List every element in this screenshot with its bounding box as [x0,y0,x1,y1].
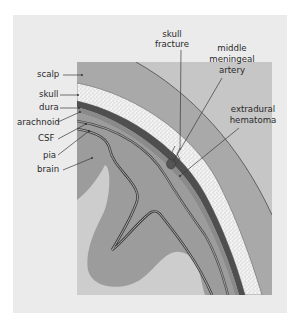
label-dura: dura [39,102,59,112]
label-mma-2: meningeal [209,54,254,64]
label-csf: CSF [38,133,54,143]
label-arachnoid: arachnoid [17,117,60,127]
anatomy-field [77,62,272,295]
label-skull-fracture-2: fracture [155,39,189,49]
label-pia: pia [43,150,56,160]
label-skull-fracture-1: skull [162,29,181,39]
label-extradural-hematoma-1: extradural [231,104,275,114]
label-extradural-hematoma-2: hematoma [230,115,277,125]
label-brain: brain [37,164,59,174]
label-mma-1: middle [217,43,246,53]
label-scalp: scalp [37,69,59,79]
label-skull: skull [39,89,58,99]
label-mma-3: artery [219,65,245,75]
extradural-hematoma-diagram: scalp skull dura arachnoid CSF pia brain… [0,0,296,330]
